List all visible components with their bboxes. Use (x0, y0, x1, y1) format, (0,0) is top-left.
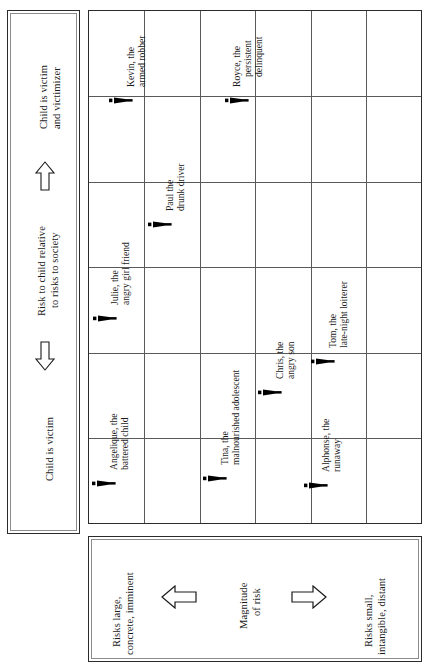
horizontal-axis-left-end-line1: Risks large, (111, 596, 123, 647)
data-point-label-line1: Angelique, the (109, 414, 120, 470)
diagram-canvas: Child is victim and victimizer Risk to c… (0, 0, 427, 668)
data-point-label-line2: angry girl friend (121, 242, 132, 305)
vertical-axis-title-line2: to risks to society (49, 232, 61, 308)
arrow-up-outline-icon (35, 161, 55, 195)
arrow-left-outline-icon (161, 585, 197, 613)
spike-marker-icon (304, 476, 328, 494)
data-point-label-line2: runaway (332, 439, 343, 472)
data-point-label-line3: delinquent (254, 37, 265, 78)
data-point-label-line2: battered child (120, 418, 131, 470)
data-point-label-line1: Royce, the (232, 46, 243, 87)
plot-grid: Kevin, the armed robber Royce, the persi… (88, 10, 422, 524)
vertical-axis-title-line1: Risk to child relative (36, 226, 48, 316)
grid-hline-5 (89, 438, 421, 439)
data-point-label-line2: armed robber (137, 36, 148, 87)
data-point-label-line2: malnourished adolescent (231, 370, 242, 465)
grid-hline-2 (89, 182, 421, 183)
data-point-label-line1: Chris, the (275, 342, 286, 379)
spike-marker-icon (225, 91, 249, 109)
data-point-label-line2: angry son (286, 341, 297, 379)
horizontal-axis-left-end-line2: concrete, imminent (124, 572, 136, 655)
vertical-axis-high-end-label-2: and victimizer (51, 67, 63, 129)
spike-marker-icon (203, 469, 227, 487)
grid-hline-4 (89, 353, 421, 354)
horizontal-axis-title-line2: of risk (251, 588, 263, 616)
data-point-label-line1: Alphonse, the (321, 419, 332, 472)
spike-marker-icon (93, 309, 117, 327)
grid-hline-1 (89, 96, 421, 97)
data-point-label-line1: Julie, the (110, 270, 121, 305)
vertical-axis-box: Child is victim and victimizer Risk to c… (7, 10, 80, 534)
data-point-label-line2: persistent (243, 40, 254, 77)
data-point-label-line2: drunk driver (176, 163, 187, 211)
data-point-label-line1: Paul the (165, 180, 176, 211)
vertical-axis-high-end-line2: and victimizer (51, 67, 63, 129)
horizontal-axis-right-end-line2: intangible, distant (376, 578, 388, 655)
arrow-down-outline-icon (35, 341, 55, 375)
horizontal-axis-right-end-line1: Risks small, (363, 594, 375, 647)
data-point-label-line1: Tina, the (220, 431, 231, 465)
horizontal-axis-title-line1: Magnitude (238, 583, 250, 629)
spike-marker-icon (148, 215, 172, 233)
vertical-axis-low-end-label: Child is victim (44, 417, 56, 481)
data-point-label-line2: late-night loiterer (339, 281, 350, 348)
arrow-right-outline-icon (291, 585, 327, 613)
spike-marker-icon (311, 352, 335, 370)
horizontal-axis-box: Risks large, concrete, imminent Magnitud… (88, 536, 422, 662)
vertical-axis-high-end-label: Child is victim (38, 65, 50, 129)
data-point-label-line1: Tom, the (328, 314, 339, 348)
data-point-label-line1: Kevin, the (126, 47, 137, 87)
spike-marker-icon (109, 91, 133, 109)
vertical-axis-high-end-line1: Child is victim (38, 65, 50, 129)
spike-marker-icon (258, 383, 282, 401)
spike-marker-icon (92, 474, 116, 492)
grid-hline-3 (89, 267, 421, 268)
